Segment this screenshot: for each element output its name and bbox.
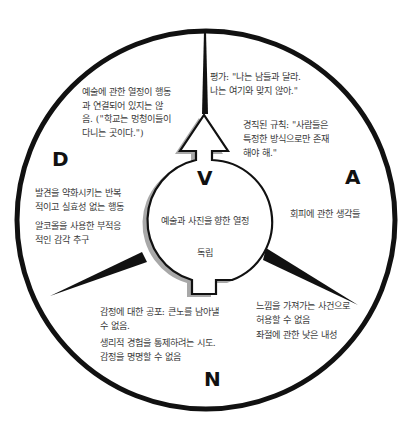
divider-left: [50, 252, 147, 296]
avoidance-thoughts-text: 회피에 관한 생각들: [290, 207, 390, 221]
divider-right: [263, 248, 358, 305]
letter-a: A: [345, 165, 360, 189]
bottom-left-item-1: 감정에 대한 공포: 큰노를 남아낼 수 없음.: [100, 305, 250, 333]
center-line1: 예술과 사진을 향한 열정: [150, 214, 260, 228]
top-left-text: 예술에 관한 열정이 행동 과 연결되어 있지는 않 음. ("학교는 멍청이들…: [82, 85, 192, 139]
left-item-1: 발견을 약화시키는 반복 적이고 실효성 없는 행동: [35, 186, 145, 214]
evaluation-text: 평가: "나는 남들과 달라. 나는 여기와 맞지 않아.": [210, 70, 350, 98]
divider-top: [202, 31, 208, 114]
bottom-left-item-2: 생리적 경험을 통제하려는 시도. 감정을 명명할 수 없음: [100, 336, 250, 364]
center-text: 예술과 사진을 향한 열정 독립: [150, 200, 260, 278]
center-line2: 독립: [150, 246, 260, 260]
bottom-right-item-2: 좌절에 관한 낮은 내성: [256, 328, 386, 342]
letter-n: N: [204, 367, 221, 391]
left-item-2: 알코올을 사용한 부적응 적인 감각 추구: [35, 219, 145, 247]
letter-v: V: [197, 166, 212, 190]
letter-d: D: [52, 147, 69, 171]
bottom-right-item-1: 느낌을 가져가는 사건으로 허용할 수 없음: [256, 299, 386, 327]
rigid-rule-text: 경직된 규칙: "사람들은 특정한 방식으로만 존재 해야 해.": [243, 118, 363, 160]
